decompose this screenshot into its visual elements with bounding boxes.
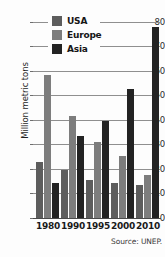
bar-usa-2000 <box>111 183 118 219</box>
bar-asia-1980 <box>52 183 59 219</box>
bar-chart: 80 70 60 50 40 30 20 10 0 Million metric… <box>0 0 165 257</box>
legend-swatch-icon-europe <box>52 30 62 40</box>
bar-europe-1980 <box>44 75 51 218</box>
bar-asia-1995 <box>102 121 109 218</box>
x-axis-line <box>33 218 161 219</box>
legend-label-europe: Europe <box>67 30 102 40</box>
bar-asia-1990 <box>77 136 84 218</box>
y-axis-title: Million metric tons <box>21 46 30 156</box>
bar-usa-1990 <box>61 170 68 218</box>
bar-asia-2010 <box>152 27 159 218</box>
bar-usa-2010 <box>136 185 143 218</box>
bar-group-2010 <box>136 22 160 218</box>
bar-europe-1995 <box>94 142 101 218</box>
bar-usa-1995 <box>86 180 93 218</box>
bar-asia-2000 <box>127 89 134 218</box>
legend-swatch-icon-usa <box>52 16 62 26</box>
bar-usa-1980 <box>36 162 43 218</box>
bar-europe-2000 <box>119 156 126 219</box>
legend-item-usa: USA <box>52 14 102 27</box>
legend-label-usa: USA <box>67 16 87 26</box>
bar-europe-2010 <box>144 175 151 218</box>
x-tick-label-2010: 2010 <box>133 221 163 231</box>
bar-europe-1990 <box>69 116 76 218</box>
chart-legend: USA Europe Asia <box>52 14 102 56</box>
bar-group-2000 <box>111 22 135 218</box>
legend-label-asia: Asia <box>67 44 88 54</box>
chart-source: Source: UNEP. <box>111 238 162 246</box>
legend-item-europe: Europe <box>52 28 102 41</box>
legend-swatch-icon-asia <box>52 44 62 54</box>
legend-item-asia: Asia <box>52 42 102 55</box>
